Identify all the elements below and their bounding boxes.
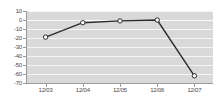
x-tick-mark bbox=[157, 84, 158, 87]
gridline bbox=[27, 20, 213, 21]
gridline bbox=[27, 74, 213, 75]
y-tick-label: -20 bbox=[2, 35, 22, 41]
gridline bbox=[27, 11, 213, 12]
y-tick-mark bbox=[23, 74, 26, 75]
gridline bbox=[27, 56, 213, 57]
x-tick-label: 12/07 bbox=[174, 87, 214, 94]
y-tick-mark bbox=[23, 20, 26, 21]
y-tick-mark bbox=[23, 11, 26, 12]
y-tick-mark bbox=[23, 56, 26, 57]
x-tick-mark bbox=[46, 84, 47, 87]
y-tick-mark bbox=[23, 47, 26, 48]
x-tick-label: 12/05 bbox=[100, 87, 140, 94]
y-tick-mark bbox=[23, 65, 26, 66]
x-tick-label: 12/03 bbox=[26, 87, 66, 94]
y-tick-mark bbox=[23, 29, 26, 30]
line-chart: 100-10-20-30-40-50-60-70 12/0312/0412/05… bbox=[0, 0, 217, 100]
y-tick-label: 0 bbox=[2, 17, 22, 23]
y-tick-label: -10 bbox=[2, 26, 22, 32]
y-tick-label: 10 bbox=[2, 8, 22, 14]
x-tick-mark bbox=[83, 84, 84, 87]
y-tick-label: -70 bbox=[2, 80, 22, 86]
gridline bbox=[27, 65, 213, 66]
y-axis-line bbox=[26, 11, 27, 84]
y-tick-label: -50 bbox=[2, 62, 22, 68]
x-tick-label: 12/04 bbox=[63, 87, 103, 94]
gridline bbox=[27, 47, 213, 48]
y-tick-label: -30 bbox=[2, 44, 22, 50]
y-tick-mark bbox=[23, 38, 26, 39]
x-tick-label: 12/06 bbox=[137, 87, 177, 94]
x-tick-mark bbox=[194, 84, 195, 87]
y-tick-label: -60 bbox=[2, 71, 22, 77]
plot-area bbox=[27, 11, 213, 83]
y-tick-label: -40 bbox=[2, 53, 22, 59]
x-tick-mark bbox=[120, 84, 121, 87]
gridline bbox=[27, 38, 213, 39]
y-tick-mark bbox=[23, 83, 26, 84]
gridline bbox=[27, 29, 213, 30]
